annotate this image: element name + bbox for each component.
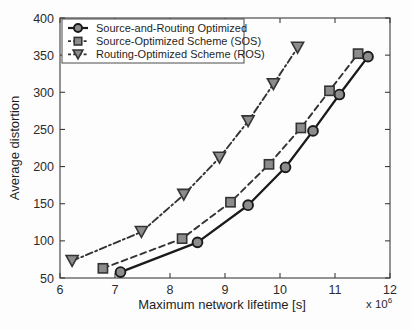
marker-square (98, 264, 107, 273)
legend-item-label: Source-Optimized Scheme (SOS) (96, 35, 261, 47)
marker-triangle-down (242, 116, 254, 127)
marker-circle (363, 52, 373, 62)
x-axis-exponent-prefix: x 10 (366, 298, 388, 310)
y-tick-label: 400 (33, 12, 54, 26)
y-tick-label: 300 (33, 86, 54, 100)
y-tick-label: 100 (33, 234, 54, 248)
x-axis-exponent: x 106 (366, 296, 393, 310)
y-tick-label: 350 (33, 49, 54, 63)
legend-item-3[interactable]: Routing-Optimized Scheme (ROS) (68, 48, 265, 60)
x-tick-label: 6 (57, 283, 64, 297)
legend-item-2[interactable]: Source-Optimized Scheme (SOS) (68, 35, 261, 47)
y-axis-title: Average distortion (7, 96, 22, 201)
x-tick-label: 12 (383, 283, 397, 297)
marker-triangle-down (267, 79, 279, 90)
chart-legend: Source-and-Routing OptimizedSource-Optim… (62, 19, 265, 63)
x-tick-label: 9 (222, 283, 229, 297)
marker-circle (193, 237, 203, 247)
series-3 (66, 42, 304, 266)
x-tick-label: 10 (273, 283, 287, 297)
y-tick-label: 250 (33, 123, 54, 137)
marker-triangle-down (135, 227, 147, 238)
y-tick-label: 150 (33, 197, 54, 211)
marker-triangle-down (292, 42, 304, 53)
marker-square (354, 49, 363, 58)
x-tick-label: 8 (167, 283, 174, 297)
marker-circle (74, 24, 82, 32)
marker-circle (335, 90, 345, 100)
y-tick-label: 200 (33, 160, 54, 174)
series-2 (98, 49, 362, 273)
marker-square (74, 37, 82, 45)
marker-circle (308, 126, 318, 136)
marker-square (325, 86, 334, 95)
marker-triangle-down (66, 256, 78, 267)
plot-canvas: 6789101112 50100150200250300350400 Avera… (0, 0, 412, 330)
x-tick-label: 11 (329, 283, 342, 297)
marker-circle (243, 200, 253, 210)
x-axis-exponent-value: 6 (388, 296, 393, 305)
marker-square (264, 160, 273, 169)
legend-item-label: Source-and-Routing Optimized (96, 22, 247, 34)
series-line (72, 48, 298, 261)
y-tick-label: 50 (40, 272, 54, 286)
marker-circle (116, 267, 126, 277)
marker-circle (281, 162, 291, 172)
chart-figure: 6789101112 50100150200250300350400 Avera… (0, 0, 412, 330)
marker-square (226, 198, 235, 207)
marker-square (178, 234, 187, 243)
legend-item-label: Routing-Optimized Scheme (ROS) (96, 48, 265, 60)
x-tick-label: 7 (112, 283, 119, 297)
x-axis-title: Maximum network lifetime [s] (138, 297, 306, 312)
data-series-layer (66, 42, 373, 277)
marker-square (296, 123, 305, 132)
